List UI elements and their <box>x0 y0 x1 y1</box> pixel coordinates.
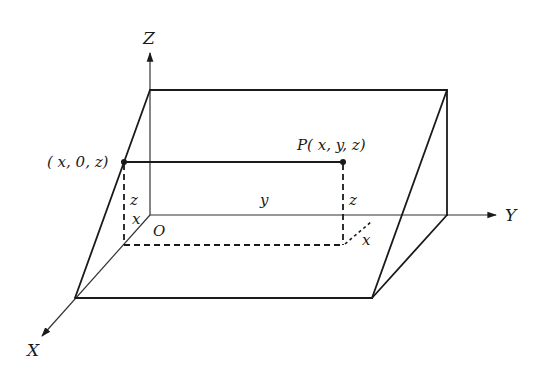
point-xz-label: ( x, 0, z) <box>47 153 109 171</box>
right-base-edge <box>372 215 447 298</box>
point-p <box>340 159 346 165</box>
right-x-label: x <box>362 231 371 249</box>
y-axis-label: Y <box>505 205 518 225</box>
middle-y-label: y <box>259 191 269 209</box>
point-p-label: P( x, y, z) <box>296 136 366 154</box>
x-axis-label: X <box>25 340 40 360</box>
point-xz-projection <box>121 159 127 165</box>
left-x-label: x <box>132 210 141 228</box>
coordinate-diagram: Z Y X O P( x, y, z) ( x, 0, z) z x y z x <box>0 0 544 378</box>
right-z-label: z <box>348 191 357 209</box>
axes <box>42 53 496 336</box>
left-z-label: z <box>129 191 138 209</box>
right-slant-edge <box>372 90 447 298</box>
x-axis <box>42 215 150 336</box>
origin-label: O <box>153 222 165 240</box>
left-slant-edge <box>75 90 150 298</box>
z-axis-label: Z <box>142 28 156 48</box>
